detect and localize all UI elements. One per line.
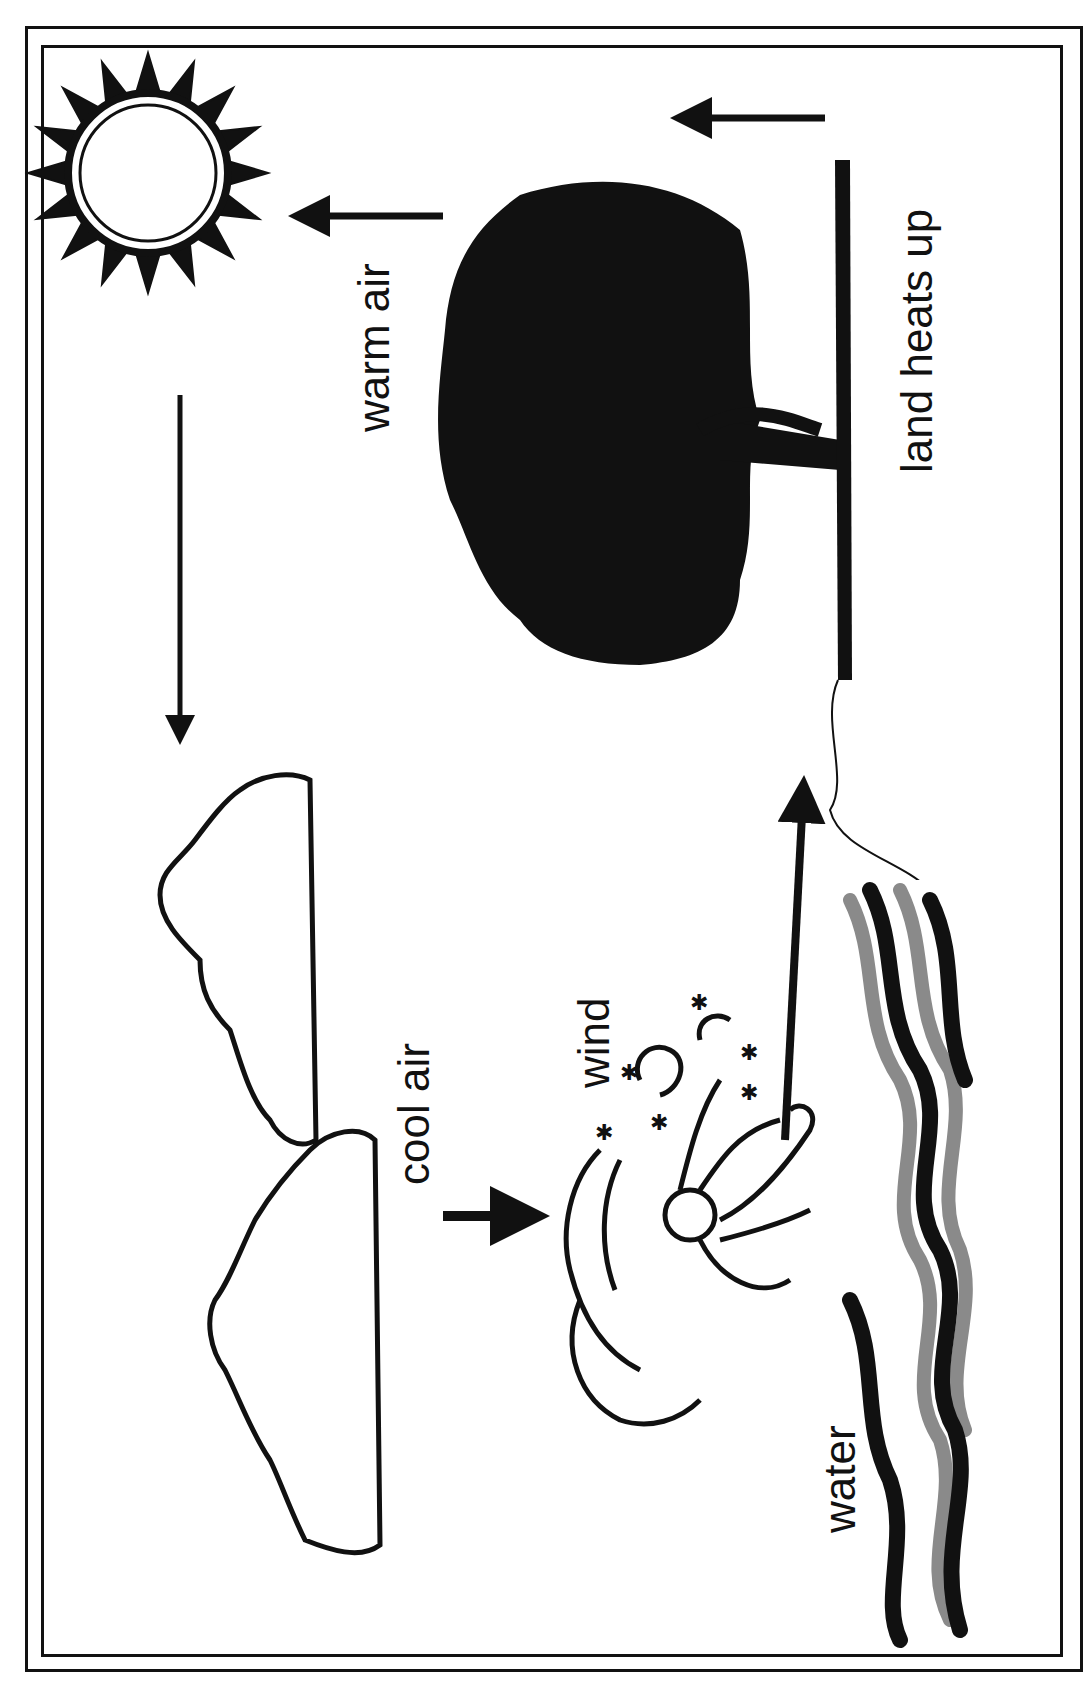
cool-air-label: cool air	[392, 1043, 436, 1185]
arrow-wind-to-land	[785, 815, 802, 1140]
svg-text:✱: ✱	[620, 1060, 638, 1085]
svg-text:✱: ✱	[690, 990, 708, 1015]
wind-sparkles: ✱ ✱ ✱ ✱ ✱ ✱	[595, 990, 758, 1145]
svg-text:✱: ✱	[740, 1080, 758, 1105]
warm-air-label: warm air	[352, 263, 396, 432]
water-label: water	[818, 1425, 862, 1533]
svg-text:✱: ✱	[595, 1120, 613, 1145]
wind-label: wind	[572, 998, 616, 1089]
cloud-icon	[160, 775, 316, 1144]
cloud-icon	[210, 1131, 380, 1552]
tree-icon	[438, 160, 852, 680]
svg-text:✱: ✱	[740, 1040, 758, 1065]
land-heats-up-label: land heats up	[895, 209, 939, 473]
svg-text:✱: ✱	[650, 1110, 668, 1135]
sun-icon	[28, 53, 268, 293]
ground-line	[835, 160, 852, 680]
